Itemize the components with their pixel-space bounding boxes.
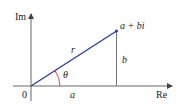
- point-label: a + bi: [120, 20, 145, 31]
- angle-arc: [55, 71, 60, 87]
- modulus-label: r: [71, 44, 75, 55]
- point-marker: [115, 29, 118, 32]
- complex-plane-diagram: Im Re 0 a + bi r b a θ: [0, 0, 182, 106]
- real-axis-label: Re: [156, 89, 168, 100]
- imaginary-part-label: b: [122, 54, 127, 65]
- origin-label: 0: [22, 89, 27, 100]
- modulus-vector: [31, 31, 117, 86]
- imaginary-axis-label: Im: [15, 11, 26, 22]
- angle-label: θ: [63, 69, 68, 80]
- real-part-label: a: [70, 89, 75, 100]
